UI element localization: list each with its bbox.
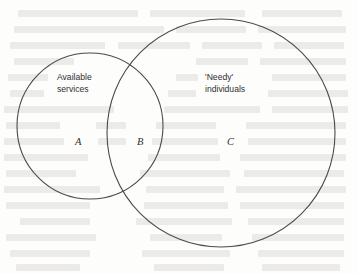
label-needy-individuals-line2: individuals	[205, 84, 245, 96]
region-label-a: A	[75, 136, 81, 147]
label-needy-individuals: 'Needy' individuals	[205, 72, 245, 95]
label-available-services-line2: services	[57, 84, 92, 96]
label-available-services: Available services	[57, 72, 92, 95]
venn-circles	[0, 0, 357, 274]
venn-diagram-figure: Available services 'Needy' individuals A…	[0, 0, 357, 274]
circle-needy-individuals	[107, 19, 335, 247]
region-label-b: B	[137, 136, 143, 147]
label-needy-individuals-line1: 'Needy'	[205, 72, 245, 84]
region-label-c: C	[227, 136, 234, 147]
label-available-services-line1: Available	[57, 72, 92, 84]
